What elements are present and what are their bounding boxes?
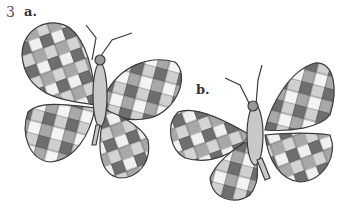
butterfly-a bbox=[22, 23, 182, 178]
butterflies-illustration bbox=[0, 0, 339, 221]
butterfly-b bbox=[171, 63, 335, 200]
